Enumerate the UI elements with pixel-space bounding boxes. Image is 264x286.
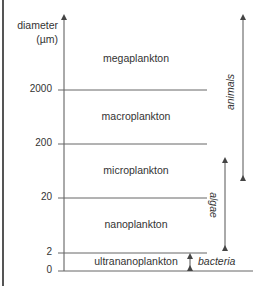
- animals-label: animals: [224, 62, 236, 122]
- tick-label-2000: 2000: [12, 83, 52, 94]
- axis-title-line2: (µm): [6, 32, 58, 46]
- band-label-macroplankton: macroplankton: [66, 110, 206, 122]
- axis-title-line1: diameter: [6, 18, 58, 32]
- bacteria-label: bacteria: [198, 255, 235, 267]
- tick-label-200: 200: [12, 137, 52, 148]
- axis-title: diameter (µm): [6, 18, 58, 46]
- band-label-ultrananoplankton: ultrananoplankton: [66, 255, 206, 267]
- tick-label-0: 0: [12, 264, 52, 275]
- tick-label-2: 2: [12, 246, 52, 257]
- band-label-megaplankton: megaplankton: [66, 52, 206, 64]
- algae-label: algae: [208, 175, 220, 235]
- tick-label-20: 20: [12, 191, 52, 202]
- band-label-microplankton: microplankton: [66, 164, 206, 176]
- band-label-nanoplankton: nanoplankton: [66, 218, 206, 230]
